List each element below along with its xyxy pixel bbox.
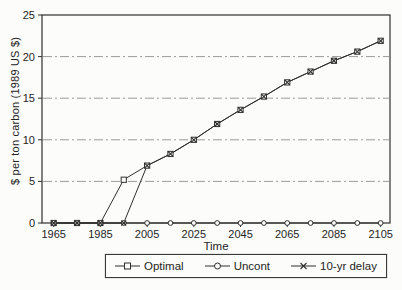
x-tick-label: 1965: [41, 228, 65, 240]
legend-item-10yr-delay: 10-yr delay: [291, 260, 377, 272]
legend-item-uncont: Uncont: [205, 260, 270, 272]
series-marker-uncont: [145, 221, 150, 226]
x-tick-label: 2045: [228, 228, 252, 240]
series-marker-uncont: [215, 221, 220, 226]
legend-label-uncont: Uncont: [234, 260, 270, 272]
legend-label-optimal: Optimal: [144, 260, 184, 272]
delay-x-marker-icon: [291, 261, 316, 271]
x-tick-label: 2085: [322, 228, 346, 240]
series-marker-uncont: [308, 221, 313, 226]
series-marker-uncont: [355, 221, 360, 226]
series-line-10-yr-delay: [54, 41, 381, 223]
plot-frame: [42, 15, 390, 223]
y-tick-label: 0: [29, 217, 35, 229]
x-tick-label: 2025: [182, 228, 206, 240]
series-marker-uncont: [191, 221, 196, 226]
y-tick-label: 25: [23, 9, 35, 21]
y-tick-label: 20: [23, 51, 35, 63]
y-tick-label: 10: [23, 134, 35, 146]
x-tick-label: 2065: [275, 228, 299, 240]
series-marker-uncont: [378, 221, 383, 226]
legend-box: Optimal Uncont 10-yr delay: [105, 254, 387, 278]
y-tick-label: 5: [29, 175, 35, 187]
series-marker-uncont: [285, 221, 290, 226]
series-marker-uncont: [332, 221, 337, 226]
y-tick-label: 15: [23, 92, 35, 104]
carbon-tax-figure: 0510152025196519852005202520452065208521…: [0, 0, 402, 290]
x-tick-label: 1985: [88, 228, 112, 240]
optimal-square-marker-icon: [115, 261, 140, 271]
series-line-optimal: [54, 41, 381, 223]
legend-item-optimal: Optimal: [115, 260, 184, 272]
series-marker-uncont: [261, 221, 266, 226]
series-marker-optimal: [121, 177, 126, 182]
legend-label-10yr-delay: 10-yr delay: [320, 260, 377, 272]
y-axis-title: $ per ton carbon (1989 US $): [9, 53, 21, 185]
uncont-circle-marker-icon: [205, 261, 230, 271]
x-axis-title: Time: [203, 240, 228, 252]
series-marker-uncont: [168, 221, 173, 226]
x-tick-label: 2005: [135, 228, 159, 240]
x-tick-label: 2105: [368, 228, 392, 240]
chart-plot-area: 0510152025196519852005202520452065208521…: [0, 0, 402, 252]
series-marker-uncont: [238, 221, 243, 226]
